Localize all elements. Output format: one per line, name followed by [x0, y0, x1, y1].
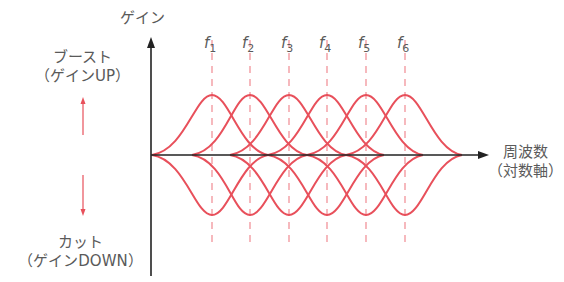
cut-label: カット （ゲインDOWN） [8, 233, 153, 271]
cut-arrow-icon [81, 175, 86, 216]
boost-label-line1: ブースト [30, 48, 135, 67]
x-axis-label-line2: （対数軸） [488, 162, 563, 181]
boost-label: ブースト （ゲインUP） [30, 48, 135, 86]
cut-label-line1: カット [8, 233, 153, 252]
x-axis-label: 周波数 （対数軸） [488, 143, 563, 181]
axes [151, 44, 480, 276]
freq-label-f5: f5 [358, 34, 370, 58]
x-axis-label-line1: 周波数 [488, 143, 563, 162]
freq-label-f1: f1 [204, 34, 216, 58]
boost-label-line2: （ゲインUP） [30, 67, 135, 86]
freq-label-f2: f2 [242, 34, 254, 58]
freq-label-f3: f3 [281, 34, 293, 58]
frequency-guides [212, 40, 405, 248]
freq-label-f4: f4 [319, 34, 331, 58]
freq-label-f6: f6 [397, 34, 409, 58]
y-axis-arrow-icon [147, 37, 155, 48]
cut-label-line2: （ゲインDOWN） [8, 252, 153, 271]
y-axis-label: ゲイン [120, 9, 165, 28]
boost-arrow-icon [81, 97, 86, 135]
